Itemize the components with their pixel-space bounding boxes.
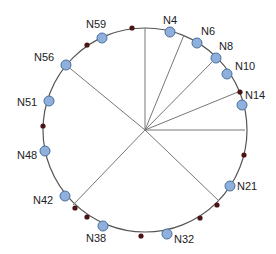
chord-line (145, 35, 184, 130)
key-dot (241, 152, 246, 157)
key-dot (72, 205, 77, 210)
node-label-n21: N21 (237, 180, 257, 192)
key-dot (214, 202, 219, 207)
key-dot (138, 233, 143, 238)
key-dot (237, 89, 242, 94)
key-dot (40, 123, 45, 128)
node-n32[interactable] (162, 229, 172, 239)
chord-line (145, 62, 212, 130)
node-label-n4: N4 (163, 14, 177, 26)
node-n6[interactable] (192, 38, 202, 48)
node-n21[interactable] (225, 181, 235, 191)
chord-line (145, 92, 238, 130)
node-label-n14: N14 (245, 89, 265, 101)
node-label-n59: N59 (86, 18, 106, 30)
node-label-n51: N51 (17, 96, 37, 108)
node-label-n42: N42 (33, 194, 53, 206)
node-label-n56: N56 (34, 51, 54, 63)
node-n8[interactable] (211, 53, 221, 63)
node-n56[interactable] (61, 60, 71, 70)
chord-line (66, 65, 145, 130)
node-label-n32: N32 (174, 233, 194, 245)
node-n51[interactable] (44, 96, 54, 106)
node-n10[interactable] (222, 69, 232, 79)
node-n4[interactable] (165, 27, 175, 37)
node-label-n38: N38 (86, 232, 106, 244)
node-label-n10: N10 (235, 60, 255, 72)
key-dot (197, 215, 202, 220)
node-label-n6: N6 (201, 25, 215, 37)
node-n38[interactable] (98, 221, 108, 231)
key-dot (84, 214, 89, 219)
chord-line (73, 130, 145, 205)
chord-line (145, 130, 219, 201)
chord-ring-diagram: N4N6N8N10N14N21N32N38N42N48N51N56N59 (0, 0, 276, 254)
node-label-n48: N48 (17, 149, 37, 161)
node-n59[interactable] (97, 33, 107, 43)
key-dot (84, 42, 89, 47)
key-dot (129, 25, 134, 30)
node-label-n8: N8 (219, 40, 233, 52)
node-n42[interactable] (60, 191, 70, 201)
node-n14[interactable] (237, 100, 247, 110)
node-n48[interactable] (40, 146, 50, 156)
